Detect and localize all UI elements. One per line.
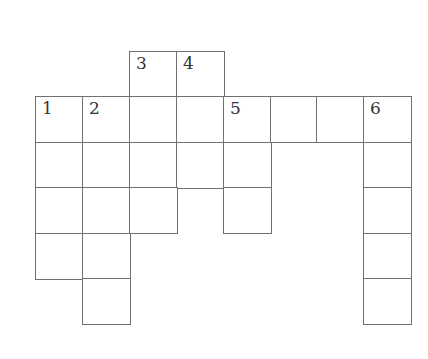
crossword-cell-2[interactable]: 2 bbox=[82, 96, 131, 143]
crossword-cell-6[interactable]: 6 bbox=[363, 96, 412, 143]
clue-number: 5 bbox=[230, 100, 241, 117]
crossword-cell[interactable] bbox=[223, 187, 272, 234]
clue-number: 6 bbox=[370, 100, 381, 117]
crossword-cell-1[interactable]: 1 bbox=[35, 96, 84, 143]
crossword-grid: 341256 bbox=[0, 0, 428, 359]
crossword-cell[interactable] bbox=[82, 142, 131, 189]
crossword-cell[interactable] bbox=[363, 278, 412, 325]
crossword-cell-5[interactable]: 5 bbox=[223, 96, 272, 143]
crossword-cell[interactable] bbox=[363, 142, 412, 189]
crossword-cell[interactable] bbox=[270, 96, 319, 143]
crossword-cell-4[interactable]: 4 bbox=[176, 51, 225, 98]
crossword-cell[interactable] bbox=[129, 142, 178, 189]
clue-number: 3 bbox=[136, 55, 147, 72]
crossword-cell[interactable] bbox=[316, 96, 365, 143]
clue-number: 2 bbox=[89, 100, 100, 117]
crossword-cell[interactable] bbox=[82, 233, 131, 280]
crossword-cell[interactable] bbox=[176, 142, 225, 189]
crossword-cell[interactable] bbox=[35, 233, 84, 280]
crossword-cell[interactable] bbox=[35, 187, 84, 234]
crossword-cell[interactable] bbox=[223, 142, 272, 189]
crossword-cell[interactable] bbox=[363, 187, 412, 234]
clue-number: 1 bbox=[42, 100, 53, 117]
crossword-cell-3[interactable]: 3 bbox=[129, 51, 178, 98]
crossword-cell[interactable] bbox=[363, 233, 412, 280]
clue-number: 4 bbox=[183, 55, 194, 72]
crossword-cell[interactable] bbox=[82, 187, 131, 234]
crossword-cell[interactable] bbox=[129, 96, 178, 143]
crossword-cell[interactable] bbox=[129, 187, 178, 234]
crossword-cell[interactable] bbox=[35, 142, 84, 189]
crossword-cell[interactable] bbox=[176, 96, 225, 143]
crossword-cell[interactable] bbox=[82, 278, 131, 325]
